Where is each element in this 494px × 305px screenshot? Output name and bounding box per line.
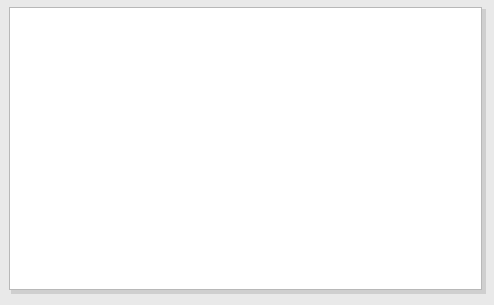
figure-root: Average money market rate, percent, late… — [0, 0, 494, 305]
chart-panel — [9, 7, 482, 290]
